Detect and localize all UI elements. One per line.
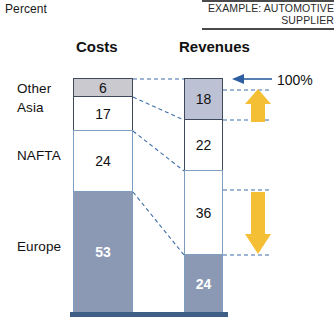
column-title-revenues: Revenues — [179, 38, 250, 55]
total-percent-label: 100% — [277, 72, 313, 88]
bar-costs: 6 17 24 53 — [73, 78, 133, 313]
unit-label: Percent — [5, 2, 47, 16]
callout-arrow-100pct — [232, 74, 272, 84]
segment-costs-asia: 17 — [73, 96, 133, 131]
arrow-up-icon — [245, 89, 271, 122]
bar-revenues: 18 22 36 24 — [184, 78, 223, 313]
segment-revenues-europe: 24 — [184, 254, 223, 313]
segment-costs-europe: 53 — [73, 191, 133, 313]
segment-costs-nafta: 24 — [73, 130, 133, 192]
segment-costs-other: 6 — [73, 78, 133, 97]
row-label-nafta: NAFTA — [17, 148, 61, 163]
arrow-up-head — [245, 89, 271, 104]
row-label-europe: Europe — [17, 239, 61, 254]
column-title-costs: Costs — [76, 38, 118, 55]
arrow-down-head — [245, 234, 271, 254]
chart-canvas: Percent EXAMPLE: AUTOMOTIVE SUPPLIER Cos… — [0, 0, 336, 331]
example-line-2: SUPPLIER — [202, 15, 334, 27]
arrow-up-shaft — [251, 102, 265, 122]
callout-arrow-head — [232, 74, 244, 84]
row-label-other: Other — [17, 81, 51, 96]
connector-other-asia — [133, 97, 184, 120]
baseline-rule — [70, 312, 228, 317]
connector-lines — [133, 79, 184, 255]
example-callout-box: EXAMPLE: AUTOMOTIVE SUPPLIER — [202, 0, 334, 30]
connector-nafta-europe — [133, 192, 184, 255]
example-line-1: EXAMPLE: AUTOMOTIVE — [202, 3, 334, 15]
row-label-asia: Asia — [17, 100, 44, 115]
arrow-down-shaft — [251, 192, 265, 236]
annotation-overlay — [0, 0, 336, 331]
segment-revenues-asia: 22 — [184, 119, 223, 171]
arrow-down-icon — [245, 192, 271, 254]
segment-revenues-other: 18 — [184, 78, 223, 120]
example-rule-bottom — [202, 28, 334, 30]
segment-revenues-nafta: 36 — [184, 170, 223, 255]
connector-asia-nafta — [133, 131, 184, 171]
guide-ticks — [223, 90, 270, 255]
